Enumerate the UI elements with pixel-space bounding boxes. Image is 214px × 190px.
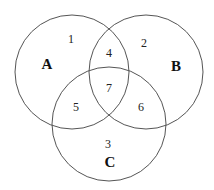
region-2-b-only: 2 (141, 36, 147, 50)
venn-diagram: A B C 1 2 3 4 5 6 7 (0, 0, 214, 190)
set-label-b: B (171, 58, 181, 74)
region-7-a-b-c: 7 (106, 81, 112, 95)
set-label-a: A (42, 56, 53, 72)
set-label-c: C (105, 154, 116, 170)
region-1-a-only: 1 (68, 32, 74, 46)
circle-b (89, 15, 203, 129)
region-3-c-only: 3 (105, 137, 111, 151)
region-5-a-and-c: 5 (73, 100, 79, 114)
region-6-b-and-c: 6 (138, 100, 144, 114)
region-4-a-and-b: 4 (106, 46, 112, 60)
